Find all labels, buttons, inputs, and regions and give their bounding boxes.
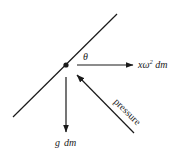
angle-theta-label: θ xyxy=(83,51,88,62)
centrifugal-force-label: xω2 dm xyxy=(137,58,168,70)
gravity-dm: dm xyxy=(64,137,76,148)
mass-point xyxy=(63,62,68,67)
centrifugal-dm: dm xyxy=(153,59,168,70)
pressure-force-label: pressure xyxy=(112,96,144,128)
free-body-diagram: θ xω2 dm gdm pressure xyxy=(0,0,189,158)
centrifugal-omega: ω xyxy=(142,59,149,70)
gravity-force-label: gdm xyxy=(55,137,76,148)
gravity-g: g xyxy=(55,137,60,148)
